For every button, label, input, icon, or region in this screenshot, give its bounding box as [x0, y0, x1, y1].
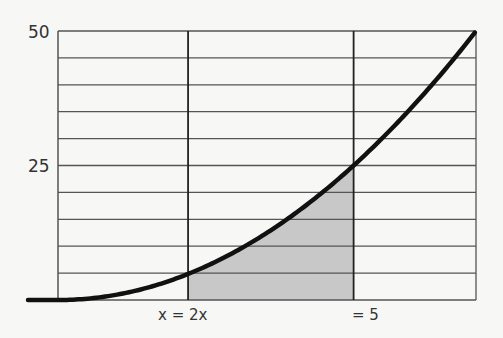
x-marker-label-left: x = 2x	[158, 306, 208, 324]
area-under-curve-chart: 50 25 x = 2x = 5	[0, 0, 503, 338]
y-tick-25: 25	[28, 156, 50, 176]
y-tick-50: 50	[28, 22, 50, 42]
x-marker-label-right: = 5	[352, 306, 379, 324]
